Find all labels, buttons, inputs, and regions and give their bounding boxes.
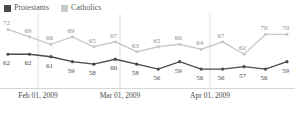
data-label: 58 [132,70,139,77]
data-point[interactable] [49,43,52,46]
data-label: 62 [3,60,10,67]
data-label: 59 [175,68,182,75]
data-point[interactable] [178,43,181,46]
data-point[interactable] [28,53,31,56]
x-axis-tick-label: Mar 01, 2009 [100,92,141,100]
data-label: 66 [175,35,182,42]
data-label: 67 [110,33,117,40]
data-label: 72 [3,20,10,27]
data-point[interactable] [200,68,203,71]
data-point[interactable] [221,68,224,71]
data-label: 60 [110,65,117,72]
legend-item-protestants[interactable]: Protestants [4,4,49,12]
data-point[interactable] [135,63,138,66]
data-point[interactable] [242,65,245,68]
data-point[interactable] [92,63,95,66]
data-label: 67 [218,33,225,40]
legend-item-catholics[interactable]: Catholics [61,4,101,12]
data-label: 58 [89,70,96,77]
data-point[interactable] [135,50,138,53]
data-point[interactable] [285,60,288,63]
data-point[interactable] [49,55,52,58]
data-label: 56 [218,75,225,82]
data-point[interactable] [242,53,245,56]
data-point[interactable] [264,68,267,71]
data-point[interactable] [6,53,9,56]
data-label: 62 [239,45,246,52]
x-axis-labels: Feb 01, 2009Mar 01, 2009Apr 01, 2009 [0,92,295,106]
data-point[interactable] [6,28,9,31]
data-label: 66 [46,35,53,42]
plot-svg [0,14,295,90]
chart-legend: Protestants Catholics [4,2,101,14]
data-point[interactable] [92,45,95,48]
data-point[interactable] [157,45,160,48]
data-point[interactable] [285,33,288,36]
data-label: 56 [261,75,268,82]
data-point[interactable] [178,60,181,63]
data-label: 63 [132,43,139,50]
data-label: 65 [153,38,160,45]
data-label: 57 [239,73,246,80]
data-label: 56 [196,75,203,82]
data-point[interactable] [200,48,203,51]
legend-label-protestants: Protestants [14,4,49,12]
data-point[interactable] [157,68,160,71]
data-label: 69 [24,28,31,35]
x-axis-tick-label: Apr 01, 2009 [190,92,230,100]
data-point[interactable] [221,40,224,43]
data-point[interactable] [264,33,267,36]
square-swatch-icon [4,5,11,12]
data-label: 59 [67,68,74,75]
data-point[interactable] [114,40,117,43]
data-point[interactable] [71,60,74,63]
data-label: 64 [196,40,203,47]
plot-area [0,14,295,90]
data-label: 69 [67,28,74,35]
data-point[interactable] [71,35,74,38]
data-label: 70 [261,25,268,32]
data-point[interactable] [114,58,117,61]
legend-label-catholics: Catholics [71,4,101,12]
line-chart: Protestants Catholics 726966696567636566… [0,0,295,118]
data-point[interactable] [28,35,31,38]
data-label: 61 [46,63,53,70]
data-label: 59 [282,68,289,75]
data-label: 56 [153,75,160,82]
data-label: 62 [24,60,31,67]
x-axis-tick-label: Feb 01, 2009 [18,92,57,100]
data-label: 65 [89,38,96,45]
data-label: 70 [282,25,289,32]
x-axis-line [0,88,295,89]
square-swatch-icon [61,5,68,12]
